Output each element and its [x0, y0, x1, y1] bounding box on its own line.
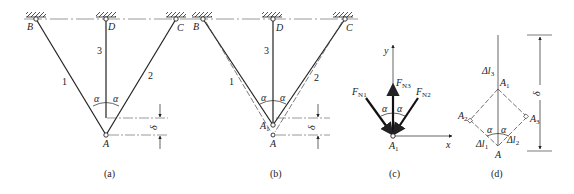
- alpha-right: α: [280, 92, 286, 103]
- member-2: [273, 19, 345, 125]
- pin-B-icon: [201, 17, 205, 21]
- label-A: A: [102, 138, 110, 149]
- caption-d: (d): [491, 168, 503, 180]
- member-label-3: 3: [97, 45, 102, 56]
- panel-b: δ B D C A1 A 1 2 3 α α (b): [190, 12, 358, 180]
- member-2-original: [275, 22, 342, 132]
- member-label-1: 1: [229, 76, 234, 87]
- label-B: B: [193, 21, 199, 32]
- alpha-left: α: [382, 103, 388, 114]
- truss-diagram: δ B D C A 1 2 3 α α (a): [0, 0, 574, 194]
- label-D: D: [275, 22, 284, 33]
- force-label-FN3: FN3: [395, 77, 411, 90]
- pin-A-icon: [271, 133, 275, 137]
- member-label-3: 3: [264, 45, 269, 56]
- alpha-left: α: [261, 92, 267, 103]
- force-label-FN2: FN2: [415, 86, 431, 99]
- member-label-2: 2: [148, 70, 153, 81]
- alpha-right: α: [397, 103, 403, 114]
- label-A: A: [494, 149, 502, 160]
- caption-a: (a): [104, 168, 115, 180]
- panel-c: y x FN1 FN2 FN3 α α A1 (c): [351, 45, 452, 180]
- label-A2: A2: [457, 110, 468, 123]
- support-hatch-icon: [192, 12, 353, 17]
- x-axis-label: x: [445, 139, 451, 150]
- panel-a: δ B D C A 1 2 3 α α (a): [24, 12, 190, 180]
- label-B: B: [27, 21, 33, 32]
- pin-C-icon: [343, 17, 347, 21]
- pin-A-icon: [104, 133, 108, 137]
- label-dl2: Δl2: [506, 134, 520, 147]
- member-1: [203, 19, 273, 125]
- pin-D-icon: [271, 17, 275, 21]
- label-dl1: Δl1: [475, 138, 489, 151]
- label-D: D: [107, 21, 116, 32]
- member-2: [106, 19, 176, 135]
- right-angle-icon: [468, 118, 473, 123]
- label-A1: A1: [388, 140, 399, 153]
- panel-d: δ Δl3 A1 A2 A3 Δl1 Δl2 A α α (d): [457, 35, 552, 180]
- label-A1: A1: [499, 77, 510, 90]
- label-C: C: [177, 22, 184, 33]
- force-label-FN1: FN1: [351, 86, 367, 99]
- alpha-right: α: [501, 124, 507, 135]
- caption-c: (c): [389, 168, 400, 180]
- member-1: [36, 19, 106, 135]
- delta-label: δ: [531, 91, 542, 96]
- label-dl3: Δl3: [481, 65, 495, 78]
- caption-b: (b): [270, 168, 282, 180]
- alpha-left: α: [94, 93, 100, 104]
- support-hatch-icon: [26, 12, 186, 17]
- projection-line: [498, 89, 527, 117]
- label-A: A: [269, 138, 277, 149]
- delta-label: δ: [148, 125, 159, 130]
- label-C: C: [346, 22, 353, 33]
- y-axis-label: y: [383, 45, 389, 56]
- alpha-right: α: [113, 93, 119, 104]
- delta-label: δ: [306, 125, 317, 130]
- pin-C-icon: [174, 17, 178, 21]
- label-A1: A1: [259, 120, 270, 133]
- member-1-original: [206, 22, 271, 132]
- pin-A1-icon: [271, 123, 275, 127]
- pin-B-icon: [34, 17, 38, 21]
- projection-line: [470, 89, 498, 120]
- label-A3: A3: [529, 113, 540, 126]
- member-label-1: 1: [62, 76, 67, 87]
- member-label-2: 2: [314, 72, 319, 83]
- pin-A1-icon: [391, 134, 395, 138]
- force-FN1-arrow-icon: [366, 98, 392, 134]
- alpha-left: α: [487, 124, 493, 135]
